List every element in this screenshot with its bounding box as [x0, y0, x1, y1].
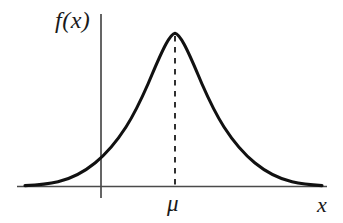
x-axis-label: x — [317, 194, 327, 216]
distribution-plot-canvas — [0, 0, 343, 223]
normal-distribution-figure: f(x) μ x — [0, 0, 343, 223]
mean-label: μ — [167, 192, 179, 215]
bell-curve-path — [25, 33, 322, 185]
y-axis-label: f(x) — [55, 8, 90, 32]
